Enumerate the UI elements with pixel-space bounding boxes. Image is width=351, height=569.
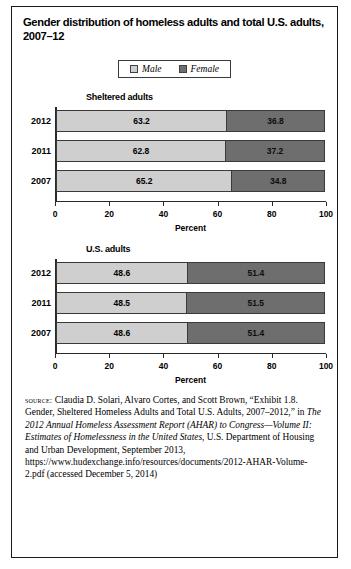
legend-label-male: Male [142,64,162,74]
panel-us-adults: U.S. adults 2012 48.6 51.4 2011 48.5 51.… [12,244,337,385]
title-line-1: Gender distribution of homeless adults a… [23,16,324,28]
x-tick-label: 40 [159,209,168,219]
bar-segment-female: 36.8 [226,110,325,132]
table-row: 2007 65.2 34.8 [56,170,325,192]
x-tick [272,202,273,206]
legend-item-female: Female [179,64,220,74]
x-tick [55,202,56,206]
chart-figure: Gender distribution of homeless adults a… [11,6,338,558]
x-tick [55,354,56,358]
bar-segment-female: 51.4 [187,322,325,344]
page-title: Gender distribution of homeless adults a… [23,16,326,43]
bar-segment-female: 51.5 [186,292,325,314]
legend: Male Female [12,60,337,78]
bar-segment-male: 48.5 [56,292,186,314]
bar-segment-male: 48.6 [56,322,187,344]
panel-heading-sheltered: Sheltered adults [86,92,337,102]
legend-box: Male Female [118,60,231,78]
x-tick-label: 80 [267,361,276,371]
x-tick [109,202,110,206]
x-tick-label: 60 [213,209,222,219]
x-tick [326,354,327,358]
source-label: source: [25,395,52,405]
title-line-2: 2007–12 [23,30,326,44]
bar-segment-male: 62.8 [56,140,225,162]
x-tick [109,354,110,358]
x-tick [218,202,219,206]
row-year-label: 2007 [31,176,51,186]
legend-label-female: Female [191,64,220,74]
x-tick-label: 100 [319,361,333,371]
x-tick [163,202,164,206]
table-row: 2011 62.8 37.2 [56,140,325,162]
x-axis-line [55,201,326,202]
x-tick-label: 20 [104,361,113,371]
source-text-1: Claudia D. Solari, Alvaro Cortes, and Sc… [25,395,307,417]
x-axis-line [55,353,326,354]
bar-segment-female: 37.2 [225,140,325,162]
legend-swatch-female-icon [179,65,187,73]
table-row: 2011 48.5 51.5 [56,292,325,314]
bar-segment-female: 34.8 [231,170,325,192]
x-tick-label: 0 [53,361,58,371]
table-row: 2007 48.6 51.4 [56,322,325,344]
legend-swatch-male-icon [130,65,138,73]
x-tick [163,354,164,358]
table-row: 2012 48.6 51.4 [56,262,325,284]
x-tick-label: 80 [267,209,276,219]
bar-segment-male: 48.6 [56,262,187,284]
x-tick-label: 60 [213,361,222,371]
x-tick-label: 40 [159,361,168,371]
panel-heading-us-adults: U.S. adults [86,244,337,254]
row-year-label: 2012 [31,116,51,126]
row-year-label: 2011 [31,298,51,308]
bar-segment-male: 63.2 [56,110,226,132]
row-year-label: 2012 [31,268,51,278]
source-note: source: Claudia D. Solari, Alvaro Cortes… [25,394,326,481]
x-tick-label: 20 [104,209,113,219]
panel-sheltered-adults: Sheltered adults 2012 63.2 36.8 2011 62.… [12,92,337,233]
row-year-label: 2011 [31,146,51,156]
plot-area-us-adults: 2012 48.6 51.4 2011 48.5 51.5 2007 48.6 … [55,259,326,354]
x-tick [272,354,273,358]
x-tick [326,202,327,206]
x-tick [218,354,219,358]
bar-segment-male: 65.2 [56,170,231,192]
table-row: 2012 63.2 36.8 [56,110,325,132]
bar-segment-female: 51.4 [187,262,325,284]
x-axis-label: Percent [55,375,326,385]
plot-area-sheltered: 2012 63.2 36.8 2011 62.8 37.2 2007 65.2 … [55,107,326,202]
row-year-label: 2007 [31,328,51,338]
x-tick-label: 100 [319,209,333,219]
x-tick-label: 0 [53,209,58,219]
legend-item-male: Male [130,64,162,74]
x-axis-label: Percent [55,223,326,233]
